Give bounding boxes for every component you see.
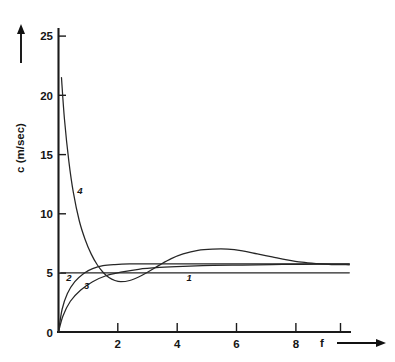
x-axis-title: f	[320, 337, 324, 349]
curve-label-4: 4	[76, 185, 83, 196]
y-tick-label-25: 25	[40, 30, 53, 42]
x-axis-direction-arrow	[337, 339, 386, 347]
chart-figure: c (m/sec) 25 20 15 10 5 0	[0, 0, 395, 362]
x-axis-tick-labels: 2 4 6 8	[115, 338, 300, 350]
curve-label-2: 2	[65, 272, 72, 283]
curve-4	[61, 78, 349, 282]
curve-2	[59, 264, 350, 332]
y-tick-label-5: 5	[47, 267, 54, 279]
y-tick-label-20: 20	[40, 90, 53, 102]
curve-3	[59, 264, 350, 332]
curve-label-3: 3	[84, 280, 90, 291]
x-tick-label-4: 4	[174, 338, 181, 350]
y-tick-label-15: 15	[40, 149, 53, 161]
y-axis-title: c (m/sec)	[14, 123, 26, 173]
x-axis-ticks	[118, 323, 341, 331]
x-tick-label-2: 2	[115, 338, 121, 350]
y-tick-label-0: 0	[47, 327, 53, 339]
y-axis-direction-arrow	[17, 24, 25, 63]
y-axis-ticks	[59, 36, 66, 273]
y-tick-label-10: 10	[40, 208, 53, 220]
curves-group	[59, 78, 350, 332]
curve-label-1: 1	[186, 272, 191, 283]
x-tick-label-8: 8	[293, 338, 300, 350]
y-axis-tick-labels: 25 20 15 10 5 0	[40, 30, 53, 339]
x-tick-label-6: 6	[233, 338, 239, 350]
chart-svg: c (m/sec) 25 20 15 10 5 0	[0, 0, 395, 362]
